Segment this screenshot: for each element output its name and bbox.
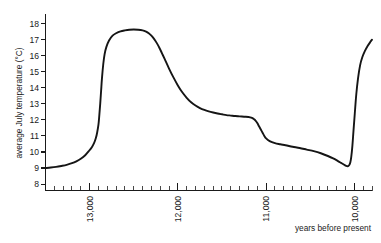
x-axis-group: 13,00012,00011,00010,000 (46, 183, 373, 222)
y-tick-label-16: 16 (29, 51, 39, 61)
y-tick-label-18: 18 (29, 19, 39, 29)
x-tick-label-12000: 12,000 (173, 196, 183, 223)
y-tick-label-12: 12 (29, 115, 39, 125)
x-axis-minor-ticks (46, 186, 373, 191)
y-tick-label-9: 9 (34, 163, 39, 173)
x-tick-label-11000: 11,000 (261, 196, 271, 222)
y-tick-label-17: 17 (29, 35, 39, 45)
y-tick-label-13: 13 (29, 99, 39, 109)
y-axis-ticks (41, 24, 46, 184)
x-tick-label-10000: 10,000 (350, 196, 360, 223)
y-tick-label-11: 11 (30, 131, 39, 141)
chart-figure: 89101112131415161718 13,00012,00011,0001… (0, 0, 381, 243)
x-tick-label-13000: 13,000 (85, 196, 95, 223)
temperature-curve (46, 30, 373, 168)
x-axis-tick-labels: 13,00012,00011,00010,000 (85, 196, 360, 223)
y-tick-label-15: 15 (29, 67, 39, 77)
y-tick-label-10: 10 (29, 147, 39, 157)
y-axis-group: 89101112131415161718 (29, 14, 45, 191)
y-tick-label-14: 14 (29, 83, 39, 93)
y-axis-tick-labels: 89101112131415161718 (29, 19, 39, 189)
temperature-line-chart: 89101112131415161718 13,00012,00011,0001… (0, 0, 381, 243)
y-tick-label-8: 8 (34, 179, 39, 189)
x-axis-label: years before present (295, 223, 372, 233)
y-axis-label: average July temperature (°C) (14, 47, 24, 158)
